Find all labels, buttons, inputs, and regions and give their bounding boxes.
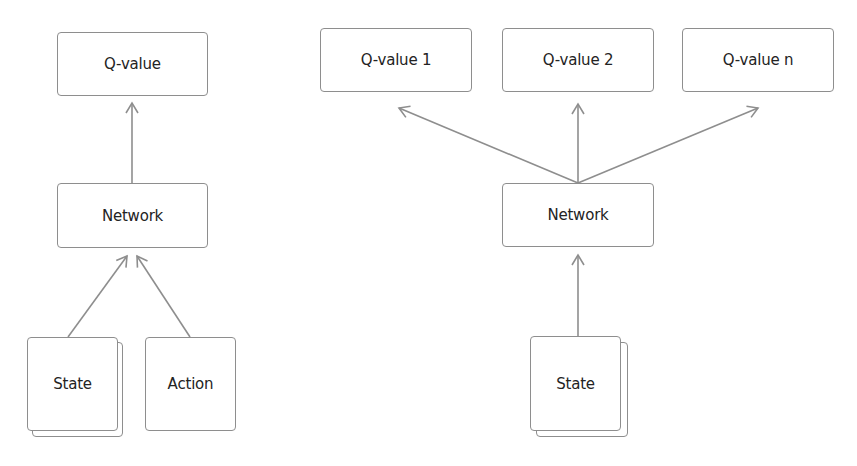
action-node: Action — [145, 337, 236, 431]
network-node-right: Network — [502, 183, 654, 247]
q-value-n-label: Q-value n — [723, 51, 794, 69]
state-node-right: State — [530, 336, 621, 431]
q-value-label: Q-value — [104, 55, 161, 73]
state-label: State — [53, 375, 92, 393]
state-label-right: State — [556, 375, 595, 393]
arrow-network-to-qvalue-n — [578, 108, 758, 183]
q-value-1-node: Q-value 1 — [320, 28, 472, 92]
q-value-n-node: Q-value n — [682, 28, 834, 92]
arrow-state-to-network — [68, 256, 127, 337]
q-value-2-label: Q-value 2 — [543, 51, 614, 69]
state-node: State — [27, 337, 118, 431]
network-label: Network — [102, 207, 163, 225]
network-label-right: Network — [547, 206, 608, 224]
action-label: Action — [168, 375, 214, 393]
arrow-network-to-qvalue-1 — [399, 108, 578, 183]
arrow-action-to-network — [137, 256, 190, 337]
q-value-1-label: Q-value 1 — [361, 51, 432, 69]
network-node: Network — [57, 183, 208, 248]
q-value-2-node: Q-value 2 — [502, 28, 654, 92]
q-value-node: Q-value — [57, 32, 208, 96]
